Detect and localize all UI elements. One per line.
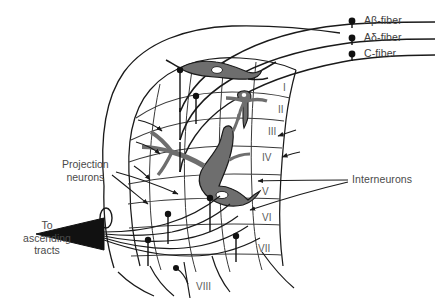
lamina-label-iii: III [268,126,276,137]
spinal-cord-dorsal-horn-diagram: Aβ-fiber Aδ-fiber C-fiber I II III IV V … [0,0,435,303]
projection-neurons-line-1: Projection [62,158,109,171]
lamina-label-vii: VII [258,243,270,254]
projection-neurons-label: Projection neurons [62,158,109,183]
lamina-label-v: V [262,186,269,197]
lamina-label-iv: IV [262,152,271,163]
ascending-tracts-label: To ascending tracts [8,219,86,257]
lamina-label-vi: VI [262,212,271,223]
projection-neuron-leader-lines [112,172,178,204]
lamina-label-ii: II [278,104,284,115]
lamina-label-i: I [283,82,286,93]
diagram-canvas [0,0,435,303]
lamina-ii-interneuron [226,91,267,128]
fiber-label-a-beta: Aβ-fiber [364,14,402,26]
ascending-tracts-line-3: tracts [8,244,86,257]
fiber-label-a-delta: Aδ-fiber [364,31,402,43]
lamina-label-viii: VIII [196,281,211,292]
projection-neurons-line-2: neurons [62,171,109,184]
interneurons-label: Interneurons [352,173,412,185]
ascending-tracts-line-2: ascending [8,232,86,245]
ascending-tracts-line-1: To [8,219,86,232]
fiber-label-c-fiber: C-fiber [364,47,396,59]
